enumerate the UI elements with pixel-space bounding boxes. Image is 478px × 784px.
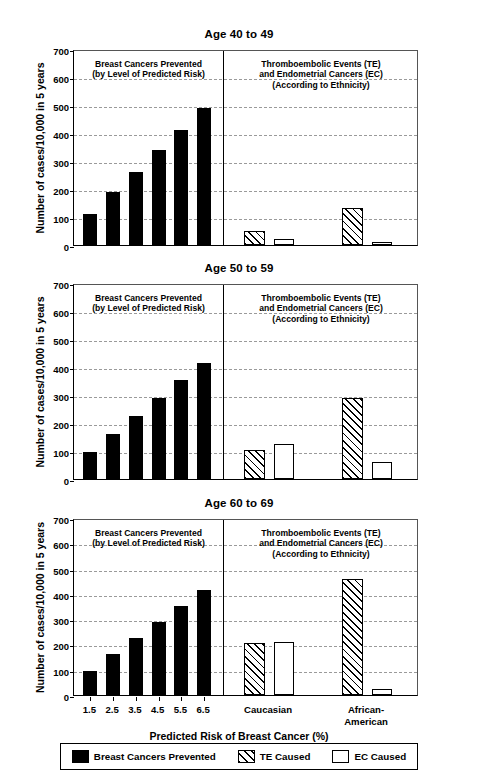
left-section-note: Breast Cancers Prevented (by Level of Pr…	[78, 528, 219, 549]
bar-breast-cancers-prevented	[174, 130, 188, 245]
bar-breast-cancers-prevented	[174, 380, 188, 479]
bar-te-caused	[342, 208, 363, 245]
y-axis-tick-label: 400	[53, 590, 69, 601]
bar-ec-caused	[274, 239, 295, 245]
y-axis-tick-label: 200	[53, 186, 69, 197]
legend-item: Breast Cancers Prevented	[72, 750, 216, 763]
y-axis-tick-mark	[70, 571, 74, 572]
right-section-note: Thromboembolic Events (TE) and Endometri…	[227, 59, 415, 90]
grid-line	[74, 191, 417, 192]
y-axis-tick-mark	[70, 313, 74, 314]
grid-line	[74, 621, 417, 622]
y-axis-tick-mark	[70, 596, 74, 597]
left-section-note: Breast Cancers Prevented (by Level of Pr…	[78, 59, 219, 80]
y-axis-tick-mark	[70, 285, 74, 286]
panel-age-50-to-59: Age 50 to 597006005004003002001000Breast…	[0, 0, 478, 784]
legend-item: EC Caused	[332, 750, 406, 763]
section-divider	[223, 51, 224, 245]
grid-line	[74, 79, 417, 80]
x-axis-tick-mark	[113, 697, 114, 701]
legend-swatch-open	[332, 750, 349, 763]
grid-line	[74, 313, 417, 314]
bar-breast-cancers-prevented	[83, 214, 97, 245]
y-axis-tick-label: 0	[64, 692, 69, 703]
grid-line	[74, 425, 417, 426]
y-axis-tick-mark	[70, 425, 74, 426]
ethnicity-tick-label: Caucasian	[244, 704, 292, 716]
legend-label: TE Caused	[260, 751, 311, 762]
bar-ec-caused	[372, 689, 393, 695]
grid-line	[74, 369, 417, 370]
y-axis-tick-label: 600	[53, 308, 69, 319]
x-axis-tick-label: 2.5	[105, 704, 118, 715]
x-axis-tick-label: 6.5	[196, 704, 209, 715]
y-axis-tick-label: 700	[53, 46, 69, 57]
y-axis-tick-mark	[70, 481, 74, 482]
y-axis-tick-label: 300	[53, 158, 69, 169]
y-axis-label: Number of cases/10,000 in 5 years	[34, 50, 46, 246]
x-axis-tick-mark	[204, 697, 205, 701]
y-axis-tick-label: 100	[53, 214, 69, 225]
y-axis-tick-label: 600	[53, 540, 69, 551]
panel-title: Age 60 to 69	[0, 497, 478, 509]
y-axis-tick-label: 400	[53, 130, 69, 141]
bar-breast-cancers-prevented	[152, 622, 166, 695]
bar-breast-cancers-prevented	[129, 416, 143, 479]
x-axis-tick-label: 3.5	[128, 704, 141, 715]
bar-ec-caused	[274, 642, 295, 695]
y-axis-tick-mark	[70, 646, 74, 647]
y-axis-tick-mark	[70, 453, 74, 454]
grid-line	[74, 107, 417, 108]
bar-breast-cancers-prevented	[83, 452, 97, 479]
y-axis-tick-label: 200	[53, 420, 69, 431]
figure-breast-cancer-risk-benefit: Age 40 to 497006005004003002001000Breast…	[0, 0, 478, 784]
y-axis-tick-label: 700	[53, 515, 69, 526]
bar-te-caused	[244, 231, 265, 245]
bar-breast-cancers-prevented	[83, 671, 97, 695]
x-axis-tick-mark	[181, 697, 182, 701]
x-axis-tick-mark	[90, 697, 91, 701]
left-section-note: Breast Cancers Prevented (by Level of Pr…	[78, 293, 219, 314]
bar-breast-cancers-prevented	[106, 434, 120, 479]
bar-breast-cancers-prevented	[197, 590, 211, 695]
panel-age-40-to-49: Age 40 to 497006005004003002001000Breast…	[0, 0, 478, 784]
y-axis-tick-mark	[70, 219, 74, 220]
y-axis-tick-label: 500	[53, 336, 69, 347]
plot-area: 7006005004003002001000Breast Cancers Pre…	[73, 284, 418, 480]
y-axis-tick-label: 300	[53, 392, 69, 403]
y-axis-tick-mark	[70, 672, 74, 673]
bar-breast-cancers-prevented	[197, 108, 211, 245]
section-divider	[223, 285, 224, 479]
y-axis-tick-label: 600	[53, 74, 69, 85]
bar-te-caused	[342, 579, 363, 695]
bar-te-caused	[244, 450, 265, 479]
grid-line	[74, 397, 417, 398]
y-axis-tick-mark	[70, 697, 74, 698]
panel-title: Age 40 to 49	[0, 28, 478, 40]
y-axis-tick-label: 500	[53, 102, 69, 113]
bar-ec-caused	[274, 444, 295, 479]
y-axis-tick-mark	[70, 163, 74, 164]
y-axis-tick-mark	[70, 135, 74, 136]
x-axis-tick-label: 5.5	[174, 704, 187, 715]
y-axis-tick-mark	[70, 397, 74, 398]
y-axis-tick-mark	[70, 79, 74, 80]
ethnicity-tick-label: African- American	[344, 704, 388, 727]
grid-line	[74, 571, 417, 572]
y-axis-tick-label: 0	[64, 242, 69, 253]
bar-ec-caused	[372, 462, 393, 479]
y-axis-tick-mark	[70, 247, 74, 248]
bar-breast-cancers-prevented	[197, 363, 211, 479]
plot-area: 7006005004003002001000Breast Cancers Pre…	[73, 50, 418, 246]
y-axis-tick-label: 0	[64, 476, 69, 487]
chart-legend: Breast Cancers PreventedTE CausedEC Caus…	[60, 743, 418, 770]
bar-breast-cancers-prevented	[174, 606, 188, 695]
panel-age-60-to-69: Age 60 to 691.52.53.54.55.56.5CaucasianA…	[0, 0, 478, 784]
x-axis-label: Predicted Risk of Breast Cancer (%)	[0, 730, 478, 742]
grid-line	[74, 135, 417, 136]
y-axis-tick-mark	[70, 520, 74, 521]
plot-area: 7006005004003002001000Breast Cancers Pre…	[73, 519, 418, 696]
y-axis-tick-mark	[70, 621, 74, 622]
grid-line	[74, 545, 417, 546]
y-axis-tick-mark	[70, 51, 74, 52]
